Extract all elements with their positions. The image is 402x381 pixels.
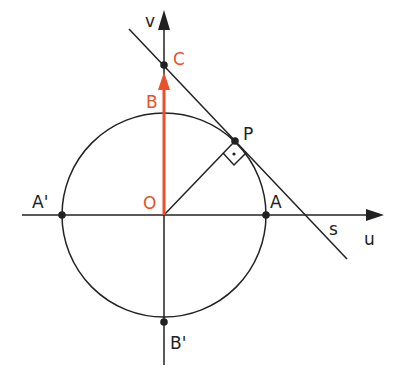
label-o: O xyxy=(143,193,156,213)
label-s: s xyxy=(329,219,338,239)
v-axis-arrow-icon xyxy=(158,10,170,30)
label-p: P xyxy=(243,124,253,144)
label-b: B xyxy=(146,92,158,112)
radius-op xyxy=(164,141,235,215)
label-a-prime: A' xyxy=(32,192,48,212)
point-p xyxy=(231,137,239,145)
diagram-canvas: v u s C B O P A A' B' xyxy=(0,0,402,381)
label-v: v xyxy=(145,11,155,31)
point-c xyxy=(160,61,168,69)
point-b-prime xyxy=(160,318,168,326)
right-angle-dot-icon xyxy=(232,152,235,155)
unit-circle-diagram: v u s C B O P A A' B' xyxy=(0,0,402,381)
vector-ob-arrowhead-icon xyxy=(158,72,170,90)
label-b-prime: B' xyxy=(170,333,186,353)
point-a xyxy=(262,211,270,219)
label-c: C xyxy=(173,49,185,69)
point-a-prime xyxy=(58,211,66,219)
label-u: u xyxy=(364,229,375,249)
label-a: A xyxy=(270,192,282,212)
u-axis-arrow-icon xyxy=(366,209,384,221)
